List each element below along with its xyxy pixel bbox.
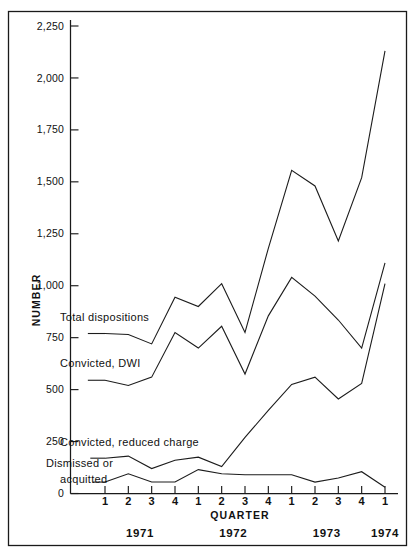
series-label-convicted-dwi: Convicted, DWI: [60, 357, 141, 369]
series-line: [105, 263, 385, 386]
y-tick-label: 1,500: [37, 175, 64, 187]
x-axis-title: QUARTER: [210, 509, 270, 521]
year-label: 1972: [219, 527, 247, 539]
year-label: 1974: [371, 527, 399, 539]
x-axis-ticks: [105, 486, 385, 494]
y-tick-label: 500: [46, 383, 64, 395]
y-tick-label: 1,750: [37, 123, 64, 135]
x-tick-label: 4: [359, 495, 366, 507]
x-tick-label: 3: [335, 495, 341, 507]
year-label: 1971: [126, 527, 154, 539]
y-tick-label: 2,250: [37, 20, 64, 32]
x-tick-label: 3: [242, 495, 248, 507]
y-axis-title: NUMBER: [30, 274, 42, 327]
x-tick-label: 2: [219, 495, 225, 507]
series-label-dismissed-line1: Dismissed or: [46, 457, 113, 469]
year-group-labels: 1971197219731974: [126, 527, 399, 539]
y-tick-label: 1,250: [37, 227, 64, 239]
x-tick-label: 4: [172, 495, 179, 507]
y-axis-tick-labels: 02505007501,0001,2501,5001,7502,0002,250: [37, 20, 64, 500]
y-tick-label: 750: [46, 331, 64, 343]
x-tick-label: 1: [382, 495, 388, 507]
x-tick-label: 2: [125, 495, 131, 507]
x-tick-label: 1: [102, 495, 108, 507]
series-line: [105, 51, 385, 344]
y-tick-label: 2,000: [37, 72, 64, 84]
x-tick-label: 4: [265, 495, 272, 507]
y-tick-label: 0: [58, 487, 64, 499]
series-line: [105, 470, 385, 488]
x-tick-label: 2: [312, 495, 318, 507]
series-label-dismissed-line2: acquitted: [60, 473, 107, 485]
x-tick-label: 3: [149, 495, 155, 507]
x-tick-label: 1: [289, 495, 295, 507]
y-axis-ticks: [71, 26, 79, 494]
year-label: 1973: [313, 527, 341, 539]
x-tick-label: 1: [195, 495, 201, 507]
series-label-convicted-reduced-charge: Convicted, reduced charge: [60, 436, 199, 448]
x-axis-tick-labels: 1234123412341: [102, 495, 388, 507]
series-label-total-dispositions: Total dispositions: [60, 311, 149, 323]
series-paths: [88, 51, 385, 487]
line-chart: 02505007501,0001,2501,5001,7502,0002,250…: [0, 0, 415, 557]
chart-figure: 02505007501,0001,2501,5001,7502,0002,250…: [0, 0, 415, 557]
